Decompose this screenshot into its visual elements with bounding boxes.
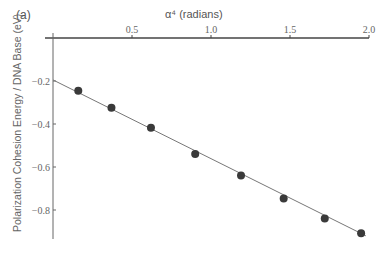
x-tick-label: 1.5 <box>284 24 297 35</box>
data-point <box>280 195 288 203</box>
data-point <box>357 229 365 237</box>
fit-line <box>53 80 366 236</box>
data-points <box>74 87 365 238</box>
y-tick-label: −0.2 <box>32 76 50 87</box>
data-point <box>74 87 82 95</box>
data-point <box>147 124 155 132</box>
x-tick-label: 2.0 <box>363 24 376 35</box>
x-tick-label: 1.0 <box>205 24 218 35</box>
plot-area: 0.51.01.52.0−0.2−0.4−0.6−0.8 <box>0 0 388 253</box>
y-tick-label: −0.4 <box>32 119 50 130</box>
data-point <box>191 150 199 158</box>
data-point <box>107 104 115 112</box>
y-tick-label: −0.8 <box>32 205 50 216</box>
data-point <box>321 214 329 222</box>
data-point <box>237 171 245 179</box>
y-tick-label: −0.6 <box>32 162 50 173</box>
axes: 0.51.01.52.0−0.2−0.4−0.6−0.8 <box>32 24 375 239</box>
x-tick-label: 0.5 <box>126 24 139 35</box>
